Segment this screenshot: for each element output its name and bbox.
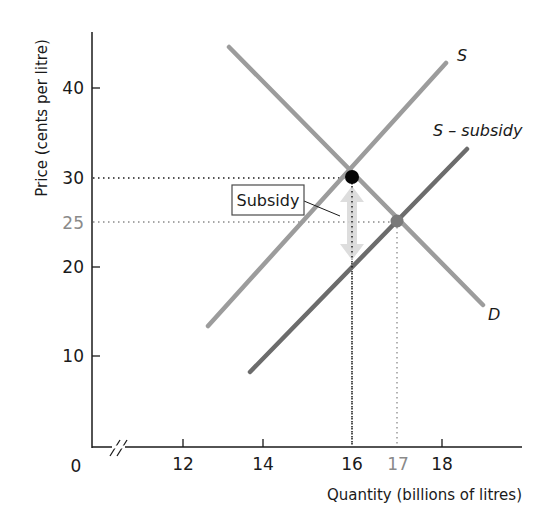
x-tick-12: 12 <box>172 454 194 474</box>
x-axis-title: Quantity (billions of litres) <box>327 486 522 504</box>
y-axis-title: Price (cents per litre) <box>33 39 51 196</box>
x-ticks <box>183 439 442 447</box>
subsidy-callout-label: Subsidy <box>237 191 300 210</box>
label-supply-minus-subsidy: S – subsidy <box>433 121 523 140</box>
axis-break-icon <box>110 440 127 456</box>
y-tick-40: 40 <box>62 78 84 98</box>
y-tick-30: 30 <box>62 168 84 188</box>
x-tick-16: 16 <box>341 454 363 474</box>
label-supply: S <box>457 46 467 65</box>
x-tick-14: 14 <box>252 454 274 474</box>
label-demand: D <box>488 305 500 324</box>
equilibrium-point-original <box>345 170 359 184</box>
x-tick-0: 0 <box>71 456 82 476</box>
x-tick-17: 17 <box>387 454 409 474</box>
x-tick-18: 18 <box>431 454 453 474</box>
y-tick-20: 20 <box>62 257 84 277</box>
y-tick-10: 10 <box>62 346 84 366</box>
subsidy-chart: Subsidy S S – subsidy D 40 30 25 20 10 0… <box>0 0 560 527</box>
supply-minus-subsidy-curve <box>250 149 467 372</box>
y-tick-25: 25 <box>62 213 84 233</box>
equilibrium-point-subsidy <box>391 215 404 228</box>
